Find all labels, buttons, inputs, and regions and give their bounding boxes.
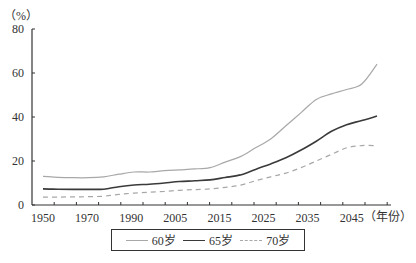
y-tick-label: 40 bbox=[12, 110, 24, 124]
x-tick-label: 1970 bbox=[75, 211, 99, 225]
y-axis: 020406080 bbox=[12, 22, 35, 212]
x-tick-label: 2045 bbox=[340, 211, 364, 225]
legend-item-65: 65岁 bbox=[183, 231, 233, 249]
y-axis-unit: （%） bbox=[4, 9, 38, 23]
x-axis-unit: （年份） bbox=[364, 210, 412, 224]
x-tick-label: 2025 bbox=[252, 211, 276, 225]
x-tick-label: 2005 bbox=[163, 211, 187, 225]
x-tick-label: 1990 bbox=[119, 211, 143, 225]
x-axis: 19501970199020052015202520352045 bbox=[31, 202, 391, 225]
x-tick-label: 1950 bbox=[31, 211, 55, 225]
y-tick-label: 0 bbox=[18, 198, 24, 212]
y-tick-label: 20 bbox=[12, 154, 24, 168]
y-tick-label: 60 bbox=[12, 66, 24, 80]
legend-label: 65岁 bbox=[209, 231, 233, 249]
legend-label: 70岁 bbox=[266, 231, 290, 249]
legend-swatch-solid-dark bbox=[183, 240, 205, 241]
legend-item-70: 70岁 bbox=[240, 231, 290, 249]
line-chart: （%） 020406080 19501970199020052015202520… bbox=[0, 0, 416, 263]
series-lines bbox=[43, 64, 377, 197]
legend: 60岁 65岁 70岁 bbox=[111, 229, 305, 251]
legend-label: 60岁 bbox=[152, 231, 176, 249]
x-tick-label: 2035 bbox=[296, 211, 320, 225]
x-tick-label: 2015 bbox=[207, 211, 231, 225]
series-line-65岁 bbox=[43, 116, 377, 190]
series-line-60岁 bbox=[43, 64, 377, 178]
legend-swatch-dashed bbox=[240, 240, 262, 241]
legend-swatch-solid-light bbox=[126, 240, 148, 241]
y-tick-label: 80 bbox=[12, 22, 24, 36]
legend-item-60: 60岁 bbox=[126, 231, 176, 249]
chart-canvas: （%） 020406080 19501970199020052015202520… bbox=[0, 0, 416, 263]
